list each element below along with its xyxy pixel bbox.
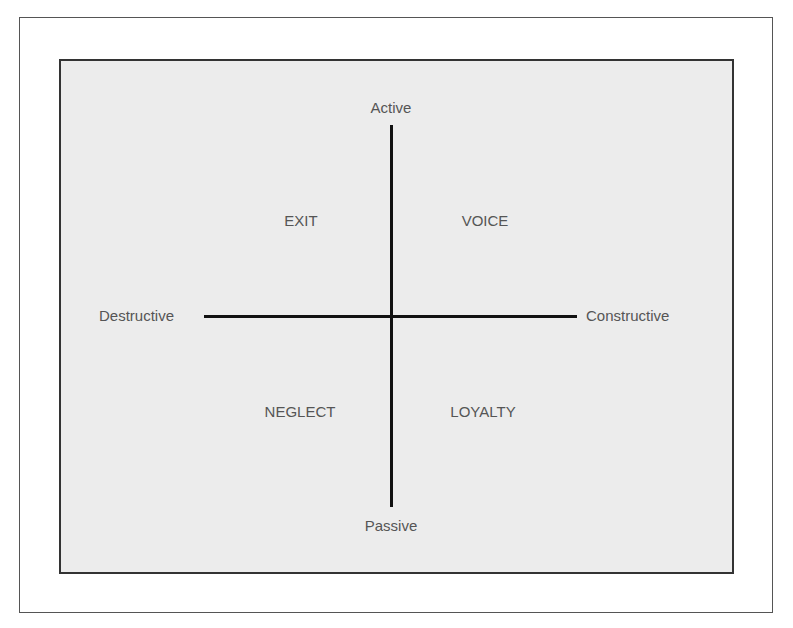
- axis-label-active: Active: [371, 99, 412, 116]
- quadrant-label-exit: EXIT: [284, 212, 317, 229]
- axis-label-constructive: Constructive: [586, 307, 669, 324]
- quadrant-label-neglect: NEGLECT: [265, 403, 336, 420]
- quadrant-label-loyalty: LOYALTY: [450, 403, 515, 420]
- axis-label-destructive: Destructive: [99, 307, 174, 324]
- horizontal-axis-line: [204, 315, 577, 318]
- axis-label-passive: Passive: [365, 517, 418, 534]
- quadrant-label-voice: VOICE: [462, 212, 509, 229]
